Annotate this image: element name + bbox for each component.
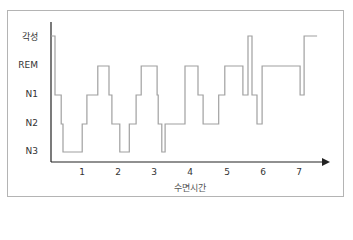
y-label-rem: REM <box>8 60 38 70</box>
x-tick-1: 1 <box>74 167 90 177</box>
x-tick-7: 7 <box>291 167 307 177</box>
x-tick-4: 4 <box>182 167 198 177</box>
x-axis-arrow-icon <box>322 158 330 166</box>
x-tick-6: 6 <box>255 167 271 177</box>
sleep-stage-line <box>51 36 317 152</box>
y-label-wake: 각성 <box>8 30 38 43</box>
x-tick-3: 3 <box>146 167 162 177</box>
x-tick-2: 2 <box>110 167 126 177</box>
y-label-n2: N2 <box>8 118 38 128</box>
x-axis-title: 수면시간 <box>160 181 220 194</box>
y-label-n3: N3 <box>8 146 38 156</box>
y-label-n1: N1 <box>8 89 38 99</box>
x-tick-5: 5 <box>219 167 235 177</box>
